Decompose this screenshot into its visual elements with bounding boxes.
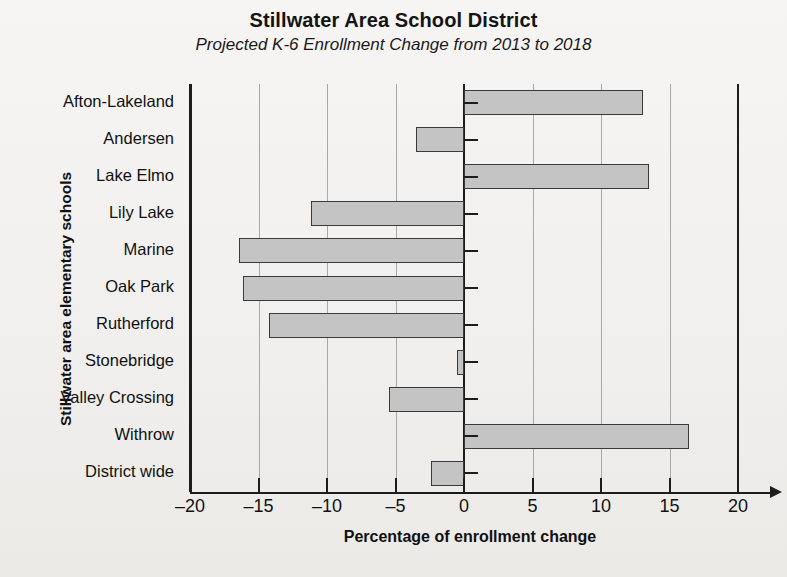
x-axis-tick-label: 20 <box>708 496 768 517</box>
category-tick <box>464 398 478 400</box>
x-axis-line <box>190 492 778 494</box>
category-tick <box>464 361 478 363</box>
y-axis-tick-label: Lake Elmo <box>0 166 174 185</box>
x-axis-tick <box>463 478 465 492</box>
bar <box>464 90 643 115</box>
x-axis-tick <box>532 478 534 492</box>
y-axis-tick-label: Oak Park <box>0 277 174 296</box>
gridline-20 <box>737 84 739 492</box>
x-axis-tick <box>395 478 397 492</box>
bar <box>416 127 464 152</box>
category-tick <box>464 287 478 289</box>
x-axis-tick <box>258 478 260 492</box>
bar <box>269 313 464 338</box>
chart-figure: Stillwater Area School District Projecte… <box>0 0 787 577</box>
category-tick <box>464 250 478 252</box>
y-axis-tick-label: Withrow <box>0 425 174 444</box>
x-axis-tick-label: –20 <box>160 496 220 517</box>
bar <box>431 461 464 486</box>
x-axis-tick <box>669 478 671 492</box>
x-axis-title: Percentage of enrollment change <box>190 528 750 546</box>
category-tick <box>464 176 478 178</box>
x-axis-tick-label: 0 <box>434 496 494 517</box>
category-tick <box>464 102 478 104</box>
bar <box>311 201 464 226</box>
y-axis-tick-label: Marine <box>0 240 174 259</box>
x-axis-tick <box>737 478 739 492</box>
x-axis-tick <box>600 478 602 492</box>
y-axis-tick-label: Andersen <box>0 129 174 148</box>
x-axis-tick-label: –15 <box>229 496 289 517</box>
y-axis-line <box>190 84 192 494</box>
bar <box>464 424 689 449</box>
bar <box>243 276 464 301</box>
bar <box>389 387 464 412</box>
chart-title: Stillwater Area School District <box>0 8 787 32</box>
x-axis-tick-label: 15 <box>640 496 700 517</box>
x-axis-tick-label: 10 <box>571 496 631 517</box>
title-block: Stillwater Area School District Projecte… <box>0 8 787 57</box>
y-axis-tick-labels: Afton-LakelandAndersenLake ElmoLily Lake… <box>0 84 182 492</box>
category-tick <box>464 472 478 474</box>
bar <box>464 164 649 189</box>
y-axis-tick-label: Stonebridge <box>0 351 174 370</box>
category-tick <box>464 213 478 215</box>
bar <box>457 350 464 375</box>
x-axis-tick <box>326 478 328 492</box>
x-axis-tick <box>189 478 191 492</box>
x-axis-arrow-icon <box>770 486 782 498</box>
y-axis-tick-label: Lily Lake <box>0 203 174 222</box>
x-axis-tick-label: –10 <box>297 496 357 517</box>
y-axis-tick-label: Rutherford <box>0 314 174 333</box>
plot-area <box>190 84 738 492</box>
chart-subtitle: Projected K-6 Enrollment Change from 201… <box>0 33 787 57</box>
category-tick <box>464 435 478 437</box>
y-axis-tick-label: District wide <box>0 462 174 481</box>
y-axis-tick-label: Afton-Lakeland <box>0 92 174 111</box>
category-tick <box>464 139 478 141</box>
category-tick <box>464 324 478 326</box>
y-axis-tick-label: Valley Crossing <box>0 388 174 407</box>
x-axis-tick-label: –5 <box>366 496 426 517</box>
bar <box>239 238 464 263</box>
x-axis-tick-label: 5 <box>503 496 563 517</box>
